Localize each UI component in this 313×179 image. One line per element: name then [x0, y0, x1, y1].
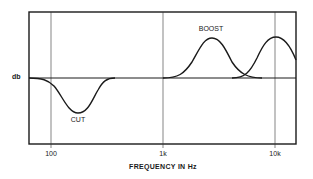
y-axis-label: db	[12, 73, 21, 80]
x-tick-100: 100	[45, 150, 57, 157]
x-axis-title: FREQUENCY IN Hz	[129, 163, 197, 170]
cut-annotation: CUT	[71, 116, 85, 123]
x-tick-1k: 1k	[159, 150, 166, 157]
x-tick-10k: 10k	[269, 150, 280, 157]
cut-curve	[29, 78, 115, 113]
boost-annotation: BOOST	[199, 25, 224, 32]
